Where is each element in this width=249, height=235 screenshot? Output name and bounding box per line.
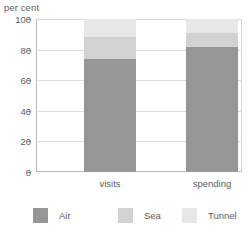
bar-segment-tunnel[interactable]	[186, 19, 238, 33]
y-axis-tick-label: 0	[26, 167, 31, 178]
y-axis-tick-label: 80	[20, 44, 31, 55]
legend-swatch-sea	[118, 208, 133, 223]
y-axis-tick-label: 60	[20, 75, 31, 86]
legend-swatch-tunnel	[182, 208, 197, 223]
bar-segment-air[interactable]	[186, 47, 238, 172]
y-axis-tick-label: 100	[15, 14, 31, 25]
legend-swatch-air	[33, 208, 48, 223]
bar-visits[interactable]	[84, 19, 136, 172]
y-axis-unit-label: per cent	[4, 2, 39, 13]
legend-label-air: Air	[59, 210, 71, 221]
y-axis-tick-labels: 020406080100	[0, 19, 31, 172]
bar-spending[interactable]	[186, 19, 238, 172]
bar-segment-sea[interactable]	[84, 37, 136, 58]
x-axis-tick-label-spending: spending	[193, 178, 232, 189]
legend-item-sea[interactable]: Sea	[118, 205, 161, 225]
legend-item-air[interactable]: Air	[33, 205, 71, 225]
x-axis-tick-label-visits: visits	[99, 178, 120, 189]
plot-area	[36, 19, 242, 172]
legend-label-tunnel: Tunnel	[208, 210, 237, 221]
legend-label-sea: Sea	[144, 210, 161, 221]
bar-segment-air[interactable]	[84, 59, 136, 172]
y-axis-tick-label: 40	[20, 105, 31, 116]
bar-segment-sea[interactable]	[186, 33, 238, 47]
chart-legend: AirSeaTunnel	[0, 205, 249, 231]
legend-item-tunnel[interactable]: Tunnel	[182, 205, 237, 225]
bar-segment-tunnel[interactable]	[84, 19, 136, 37]
stacked-bar-chart: per cent 020406080100 visitsspending Air…	[0, 0, 249, 235]
y-axis-tick-label: 20	[20, 136, 31, 147]
